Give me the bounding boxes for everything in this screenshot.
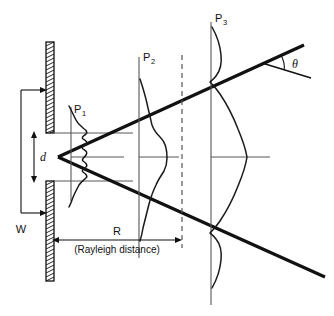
label-rayleigh-caption: (Rayleigh distance) bbox=[74, 244, 160, 255]
label-aperture-width: d bbox=[40, 150, 47, 164]
beam-edge-lower bbox=[58, 157, 325, 277]
dimension-rayleigh: R (Rayleigh distance) bbox=[52, 225, 182, 255]
diffraction-diagram-svg: d W bbox=[0, 0, 334, 316]
label-plane-p3: P bbox=[215, 12, 222, 24]
wall-hatch-upper bbox=[46, 42, 54, 133]
p1-label-group: P 1 bbox=[74, 103, 86, 118]
label-wall-extent: W bbox=[16, 223, 27, 235]
label-plane-p1-subscript: 1 bbox=[82, 109, 86, 118]
plane-p3: P 3 bbox=[210, 12, 270, 305]
theta-arc bbox=[281, 55, 284, 70]
label-rayleigh-symbol: R bbox=[113, 225, 121, 237]
theta-reference-ray bbox=[262, 63, 311, 78]
label-plane-p2-subscript: 2 bbox=[151, 57, 155, 66]
beam-edge-upper bbox=[58, 45, 304, 157]
wall-hatch-lower bbox=[46, 181, 54, 281]
label-plane-p2: P bbox=[143, 51, 150, 63]
p2-intensity-profile bbox=[140, 79, 167, 241]
p2-label-group: P 2 bbox=[143, 51, 155, 66]
dimension-d: d bbox=[31, 131, 47, 183]
p3-label-group: P 3 bbox=[215, 12, 227, 27]
label-angle-theta: θ bbox=[292, 57, 298, 71]
wall-segment-upper bbox=[46, 42, 54, 133]
angle-theta: θ bbox=[262, 55, 311, 78]
diffraction-figure: d W bbox=[0, 0, 334, 316]
beam-cone bbox=[58, 45, 325, 277]
plane-p1: P 1 bbox=[69, 103, 124, 207]
aperture-wall bbox=[46, 42, 54, 281]
wall-segment-lower bbox=[46, 181, 54, 281]
plane-p2: P 2 bbox=[139, 51, 179, 258]
label-plane-p1: P bbox=[74, 103, 81, 115]
label-plane-p3-subscript: 3 bbox=[223, 18, 227, 27]
